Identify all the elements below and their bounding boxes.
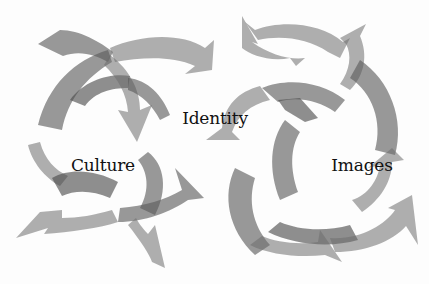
curved-arrow-icon <box>52 172 118 198</box>
curved-arrow-icon <box>128 218 165 268</box>
curved-arrow-icon <box>278 98 318 122</box>
curved-arrow-icon <box>110 37 214 74</box>
curved-arrow-icon <box>272 120 300 200</box>
curved-arrow-icon <box>242 16 305 66</box>
curved-arrow-icon <box>330 195 418 252</box>
label-culture: Culture <box>71 157 135 174</box>
label-identity: Identity <box>182 110 248 127</box>
label-images: Images <box>331 157 392 174</box>
curved-arrow-icon <box>16 210 118 238</box>
diagram-canvas: Identity Culture Images <box>0 0 429 284</box>
curved-arrows-graphic <box>0 0 429 284</box>
curved-arrow-icon <box>350 60 398 155</box>
